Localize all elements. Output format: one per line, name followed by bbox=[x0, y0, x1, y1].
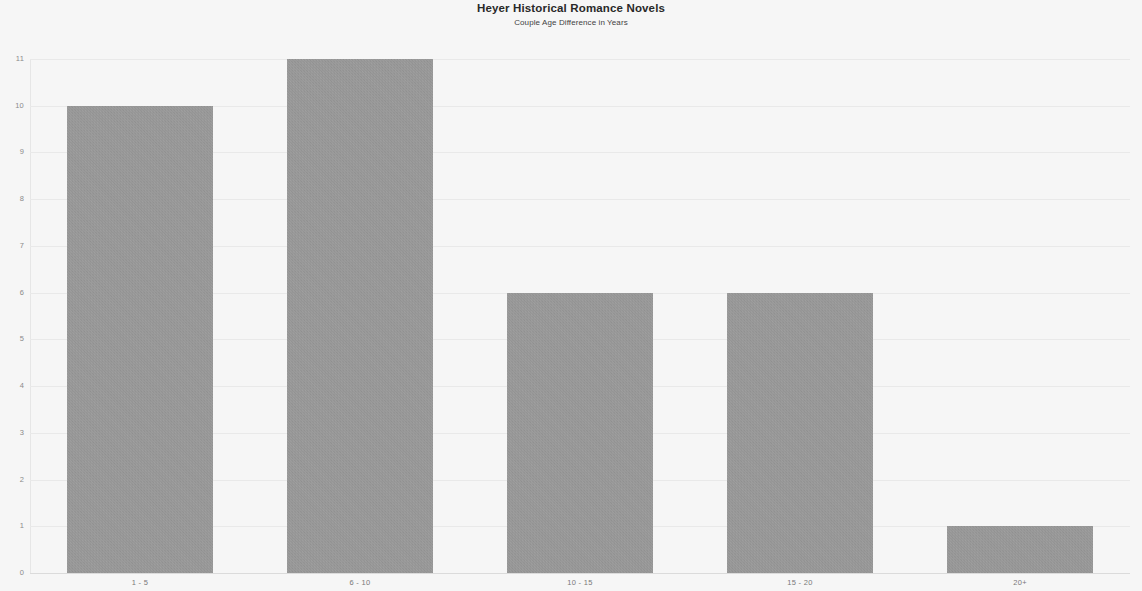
bar bbox=[947, 526, 1093, 573]
gridline bbox=[30, 573, 1130, 574]
gridline bbox=[30, 59, 1130, 60]
x-tick-label: 10 - 15 bbox=[470, 578, 690, 587]
y-tick-label: 1 bbox=[0, 522, 24, 530]
plot-area bbox=[30, 59, 1130, 573]
chart-title: Heyer Historical Romance Novels bbox=[0, 1, 1142, 15]
x-tick-label: 1 - 5 bbox=[30, 578, 250, 587]
y-tick-label: 4 bbox=[0, 382, 24, 390]
x-tick-label: 6 - 10 bbox=[250, 578, 470, 587]
y-tick-label: 6 bbox=[0, 289, 24, 297]
x-tick-label: 15 - 20 bbox=[690, 578, 910, 587]
y-tick-label: 0 bbox=[0, 569, 24, 577]
y-tick-label: 2 bbox=[0, 476, 24, 484]
y-tick-label: 11 bbox=[0, 55, 24, 63]
bar bbox=[727, 293, 873, 573]
y-tick-label: 8 bbox=[0, 195, 24, 203]
bar-chart-figure: Heyer Historical Romance Novels Couple A… bbox=[0, 0, 1142, 591]
y-tick-label: 7 bbox=[0, 242, 24, 250]
y-tick-label: 9 bbox=[0, 148, 24, 156]
bar bbox=[287, 59, 433, 573]
chart-subtitle: Couple Age Difference in Years bbox=[0, 17, 1142, 29]
bar bbox=[67, 106, 213, 573]
y-tick-label: 3 bbox=[0, 429, 24, 437]
bar bbox=[507, 293, 653, 573]
chart-title-block: Heyer Historical Romance Novels Couple A… bbox=[0, 1, 1142, 29]
x-tick-label: 20+ bbox=[910, 578, 1130, 587]
y-tick-label: 10 bbox=[0, 102, 24, 110]
y-tick-label: 5 bbox=[0, 335, 24, 343]
